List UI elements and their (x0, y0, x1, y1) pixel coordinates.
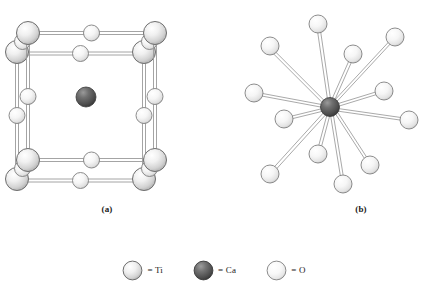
legend-label-o: = O (291, 265, 305, 275)
ti-atom (144, 149, 167, 172)
bond (267, 46, 329, 108)
o-atom (245, 84, 263, 102)
o-atom (147, 89, 163, 105)
ti-atom (17, 22, 40, 45)
o-atom (375, 82, 393, 100)
o-atom (84, 152, 100, 168)
o-atom (309, 145, 327, 163)
legend-label-ti: = Ti (147, 265, 163, 275)
ca-sphere-icon (193, 260, 214, 281)
caption-a: (a) (87, 204, 127, 214)
bond (317, 24, 332, 106)
bond (331, 108, 408, 122)
ca-atom-center (76, 87, 96, 107)
o-atom (9, 108, 25, 124)
legend-item-ti: = Ti (122, 260, 163, 281)
o-atom (261, 37, 279, 55)
o-atom (309, 15, 327, 33)
bond (332, 107, 371, 165)
caption-b: (b) (341, 204, 381, 214)
o-atom (73, 173, 89, 189)
o-atom (361, 156, 379, 174)
o-atom (73, 46, 89, 62)
legend-item-o: = O (266, 260, 305, 281)
o-atom (136, 108, 152, 124)
ti-atom (144, 22, 167, 45)
ca-atom-center (321, 98, 340, 117)
legend-label-ca: = Ca (218, 265, 236, 275)
o-atom (20, 89, 36, 105)
coordination-svg (214, 0, 428, 200)
ti-atom (17, 149, 40, 172)
legend-item-ca: = Ca (193, 260, 236, 281)
panel-b-coordination (214, 0, 428, 200)
o-atom (84, 25, 100, 41)
o-atom (344, 45, 362, 63)
panel-a-unit-cell (0, 0, 214, 200)
o-atom (261, 165, 279, 183)
o-sphere-icon (266, 260, 287, 281)
ti-sphere-icon (122, 260, 143, 281)
bond (253, 92, 329, 109)
o-atom (334, 175, 352, 193)
o-atom (386, 28, 404, 46)
perovskite-figure: (a) (b) = Ti (0, 0, 428, 291)
unit-cell-svg (0, 0, 214, 200)
o-atom (275, 110, 293, 128)
legend: = Ti = Ca (0, 252, 428, 288)
o-atom (400, 111, 418, 129)
